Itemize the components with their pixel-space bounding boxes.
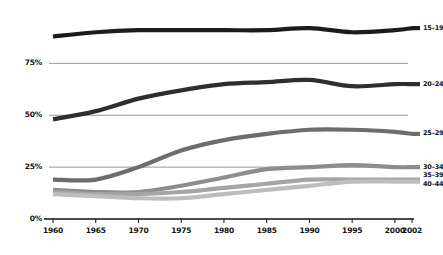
x-tick-label-1980: 1980 bbox=[214, 227, 234, 235]
y-tick-label-0pct: 0% bbox=[30, 215, 42, 223]
legend-label-15-19: 15–19 bbox=[423, 25, 443, 32]
x-tick-label-1975: 1975 bbox=[171, 227, 191, 235]
series-lines bbox=[53, 28, 412, 199]
x-tick-label-2002: 2002 bbox=[402, 227, 422, 235]
y-tick-label-75pct: 75% bbox=[25, 59, 42, 67]
y-tick-label-25pct: 25% bbox=[25, 163, 42, 171]
gridlines bbox=[49, 63, 408, 167]
legend-label-35-39: 35–39 bbox=[423, 172, 443, 179]
legend-label-40-44: 40–44 bbox=[423, 181, 443, 188]
x-tick-label-1965: 1965 bbox=[86, 227, 106, 235]
legend-swatches bbox=[412, 28, 420, 182]
x-tick-label-1985: 1985 bbox=[257, 227, 277, 235]
x-tick-label-1960: 1960 bbox=[43, 227, 63, 235]
y-tick-label-50pct: 50% bbox=[25, 111, 42, 119]
x-tick-label-1970: 1970 bbox=[128, 227, 148, 235]
x-tick-label-1990: 1990 bbox=[299, 227, 319, 235]
legend-label-25-29: 25–29 bbox=[423, 130, 443, 137]
series-line-15-19 bbox=[53, 28, 412, 36]
series-line-20-24 bbox=[53, 80, 412, 120]
series-line-40-44 bbox=[53, 181, 412, 198]
legend-label-20-24: 20–24 bbox=[423, 81, 443, 88]
x-tick-label-1995: 1995 bbox=[342, 227, 362, 235]
legend-label-30-34: 30–34 bbox=[423, 164, 443, 171]
series-line-25-29 bbox=[53, 129, 412, 180]
